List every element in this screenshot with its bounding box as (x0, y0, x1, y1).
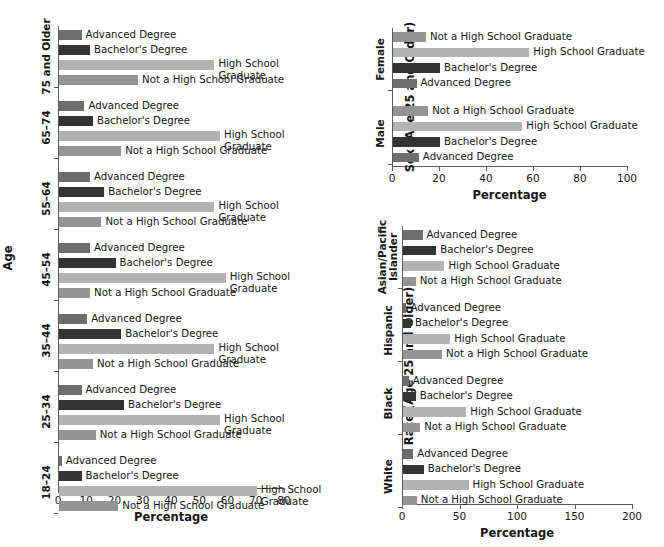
bar-25-34-high-school-graduate[interactable] (59, 415, 220, 425)
sex-chart-x-axis-title: Percentage (392, 188, 627, 202)
bar-55-64-bachelor-s-degree[interactable] (59, 187, 104, 197)
bar-label-male-not-a-high-school-graduate: Not a High School Graduate (432, 105, 574, 117)
bar-45-54-high-school-graduate[interactable] (59, 273, 226, 283)
bar-asian-pacific-islander-advanced-degree[interactable] (403, 230, 423, 240)
group-rule (388, 90, 392, 91)
bar-18-24-advanced-degree[interactable] (59, 456, 62, 466)
group-rule (54, 158, 58, 159)
bar-hispanic-bachelor-s-degree[interactable] (403, 319, 411, 329)
bar-label-35-44-advanced-degree: Advanced Degree (91, 313, 182, 325)
bar-hispanic-advanced-degree[interactable] (403, 303, 406, 313)
bar-label-white-bachelor-s-degree: Bachelor's Degree (428, 463, 521, 475)
bar-label-45-54-high-school-graduate: High School Graduate (230, 271, 290, 294)
group-rule (398, 507, 402, 508)
bar-label-female-not-a-high-school-graduate: Not a High School Graduate (430, 31, 572, 43)
group-rule (54, 513, 58, 514)
bar-65-74-advanced-degree[interactable] (59, 101, 84, 111)
bar-female-bachelor-s-degree[interactable] (393, 63, 440, 73)
bar-35-44-advanced-degree[interactable] (59, 314, 87, 324)
bar-label-18-24-not-a-high-school-graduate: Not a High School Graduate (122, 500, 264, 512)
bar-75-and-older-bachelor-s-degree[interactable] (59, 45, 90, 55)
bar-35-44-high-school-graduate[interactable] (59, 344, 214, 354)
bar-black-high-school-graduate[interactable] (403, 407, 466, 417)
bar-18-24-high-school-graduate[interactable] (59, 486, 257, 496)
sex-chart-x-tick (533, 166, 534, 171)
bar-45-54-advanced-degree[interactable] (59, 243, 90, 253)
bar-45-54-not-a-high-school-graduate[interactable] (59, 288, 90, 298)
bar-55-64-advanced-degree[interactable] (59, 172, 90, 182)
bar-18-24-bachelor-s-degree[interactable] (59, 471, 82, 481)
bar-label-female-bachelor-s-degree: Bachelor's Degree (444, 62, 537, 74)
group-rule (398, 361, 402, 362)
bar-18-24-not-a-high-school-graduate[interactable] (59, 501, 118, 511)
age-chart-plot-area: 01020304050607080PercentageAgeAdvanced D… (58, 26, 284, 488)
bar-label-25-34-not-a-high-school-graduate: Not a High School Graduate (100, 429, 242, 441)
bar-label-65-74-bachelor-s-degree: Bachelor's Degree (97, 115, 190, 127)
bar-label-18-24-high-school-graduate: High School Graduate (261, 484, 321, 507)
sex-chart-x-tick (580, 166, 581, 171)
bar-25-34-bachelor-s-degree[interactable] (59, 400, 124, 410)
bar-white-not-a-high-school-graduate[interactable] (403, 496, 417, 506)
bar-65-74-bachelor-s-degree[interactable] (59, 116, 93, 126)
bar-label-hispanic-high-school-graduate: High School Graduate (454, 333, 565, 345)
bar-black-not-a-high-school-graduate[interactable] (403, 423, 420, 433)
group-rule (54, 442, 58, 443)
bar-35-44-not-a-high-school-graduate[interactable] (59, 359, 93, 369)
bar-hispanic-not-a-high-school-graduate[interactable] (403, 350, 442, 360)
bar-white-high-school-graduate[interactable] (403, 480, 469, 490)
sex-chart-x-tick-label: 40 (479, 172, 492, 184)
bar-label-white-advanced-degree: Advanced Degree (417, 448, 508, 460)
sex-chart-panel: 020406080100PercentageSex (Age 25 and Ol… (340, 0, 664, 210)
sex-chart-x-tick-label: 20 (432, 172, 445, 184)
bar-male-high-school-graduate[interactable] (393, 122, 522, 132)
age-chart-x-axis-title: Percentage (58, 510, 284, 524)
bar-label-45-54-not-a-high-school-graduate: Not a High School Graduate (94, 287, 236, 299)
bar-label-black-bachelor-s-degree: Bachelor's Degree (420, 390, 513, 402)
bar-asian-pacific-islander-bachelor-s-degree[interactable] (403, 246, 436, 256)
bar-male-advanced-degree[interactable] (393, 153, 419, 163)
bar-label-hispanic-not-a-high-school-graduate: Not a High School Graduate (446, 348, 588, 360)
bar-female-high-school-graduate[interactable] (393, 48, 529, 58)
bar-25-34-not-a-high-school-graduate[interactable] (59, 430, 96, 440)
group-rule (54, 300, 58, 301)
bar-25-34-advanced-degree[interactable] (59, 385, 82, 395)
bar-white-advanced-degree[interactable] (403, 449, 413, 459)
bar-asian-pacific-islander-not-a-high-school-graduate[interactable] (403, 277, 416, 287)
bar-black-advanced-degree[interactable] (403, 376, 409, 386)
bar-label-male-high-school-graduate: High School Graduate (526, 120, 637, 132)
bar-label-black-high-school-graduate: High School Graduate (470, 406, 581, 418)
group-rule (54, 371, 58, 372)
bar-label-55-64-not-a-high-school-graduate: Not a High School Graduate (105, 216, 247, 228)
bar-label-female-high-school-graduate: High School Graduate (533, 46, 644, 58)
bar-75-and-older-not-a-high-school-graduate[interactable] (59, 75, 138, 85)
bar-35-44-bachelor-s-degree[interactable] (59, 329, 121, 339)
bar-male-not-a-high-school-graduate[interactable] (393, 106, 428, 116)
bar-label-male-advanced-degree: Advanced Degree (423, 151, 514, 163)
bar-asian-pacific-islander-high-school-graduate[interactable] (403, 261, 444, 271)
bar-label-male-bachelor-s-degree: Bachelor's Degree (444, 136, 537, 148)
bar-65-74-high-school-graduate[interactable] (59, 131, 220, 141)
sex-chart-x-tick-label: 60 (526, 172, 539, 184)
bar-55-64-not-a-high-school-graduate[interactable] (59, 217, 101, 227)
bar-45-54-bachelor-s-degree[interactable] (59, 258, 116, 268)
bar-75-and-older-advanced-degree[interactable] (59, 30, 82, 40)
sex-chart-plot-area: 020406080100PercentageSex (Age 25 and Ol… (392, 28, 627, 166)
bar-label-55-64-advanced-degree: Advanced Degree (94, 171, 185, 183)
bar-label-18-24-bachelor-s-degree: Bachelor's Degree (86, 470, 179, 482)
bar-55-64-high-school-graduate[interactable] (59, 202, 214, 212)
race-chart-x-axis-title: Percentage (402, 526, 632, 540)
bar-label-asian-pacific-islander-advanced-degree: Advanced Degree (427, 229, 518, 241)
bar-65-74-not-a-high-school-graduate[interactable] (59, 146, 121, 156)
bar-female-not-a-high-school-graduate[interactable] (393, 32, 426, 42)
race-chart-x-tick-label: 0 (399, 510, 406, 522)
bar-label-white-high-school-graduate: High School Graduate (473, 479, 584, 491)
race-chart-x-tick (575, 504, 576, 509)
group-rule (398, 434, 402, 435)
bar-hispanic-high-school-graduate[interactable] (403, 334, 450, 344)
bar-male-bachelor-s-degree[interactable] (393, 137, 440, 147)
bar-black-bachelor-s-degree[interactable] (403, 392, 416, 402)
bar-white-bachelor-s-degree[interactable] (403, 465, 424, 475)
race-chart-plot-area: 050100150200PercentageRace (Age 25 and O… (402, 226, 632, 504)
bar-75-and-older-high-school-graduate[interactable] (59, 60, 214, 70)
bar-female-advanced-degree[interactable] (393, 79, 417, 89)
